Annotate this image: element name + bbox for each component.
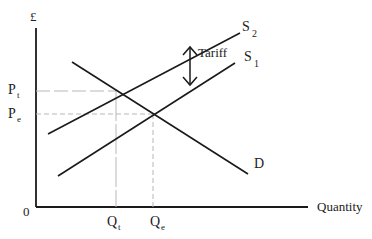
x-axis-label: Quantity — [317, 199, 363, 214]
supply-original-curve — [58, 63, 235, 176]
svg-text:1: 1 — [254, 58, 259, 69]
demand-label: D — [254, 156, 264, 171]
svg-text:t: t — [17, 90, 20, 100]
svg-text:Q: Q — [150, 214, 160, 229]
svg-text:e: e — [161, 222, 165, 232]
demand-curve — [72, 62, 248, 174]
supply-tariff-label: S 2 — [242, 19, 257, 39]
tariff-label: Tariff — [198, 45, 228, 60]
svg-text:t: t — [118, 222, 121, 232]
svg-text:2: 2 — [252, 28, 257, 39]
svg-text:S: S — [244, 49, 252, 64]
price-label-pe: P e — [8, 106, 21, 124]
svg-text:P: P — [8, 82, 16, 97]
svg-text:S: S — [242, 19, 250, 34]
tariff-supply-demand-diagram: £ Quantity 0 Tariff S 2 S 1 D P t P e Q … — [0, 0, 372, 239]
y-axis-label: £ — [30, 9, 37, 24]
svg-text:Q: Q — [107, 214, 117, 229]
origin-label: 0 — [23, 204, 30, 219]
tariff-arrow-icon — [183, 47, 197, 85]
svg-text:e: e — [17, 114, 21, 124]
svg-text:P: P — [8, 106, 16, 121]
supply-original-label: S 1 — [244, 49, 259, 69]
price-label-pt: P t — [8, 82, 20, 100]
quantity-label-qe: Q e — [150, 214, 165, 232]
quantity-label-qt: Q t — [107, 214, 121, 232]
